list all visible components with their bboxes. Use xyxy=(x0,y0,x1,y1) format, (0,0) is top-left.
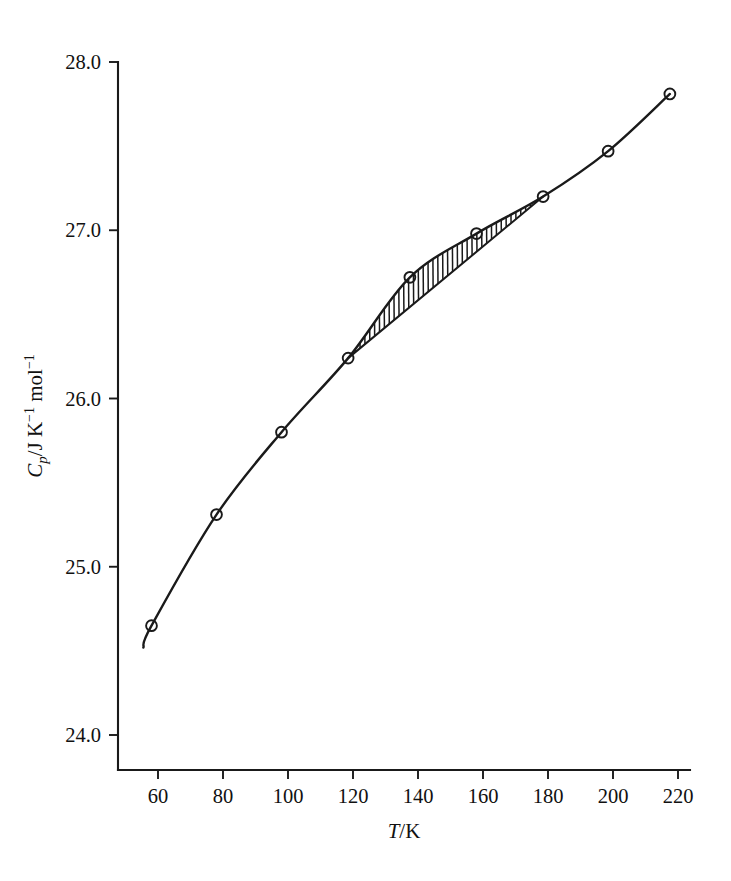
hatch-stroke xyxy=(505,54,508,466)
data-point-marker xyxy=(404,272,415,283)
data-point-marker xyxy=(471,228,482,239)
hatch-stroke xyxy=(358,54,361,466)
hatch-stroke xyxy=(363,54,366,466)
hatch-stroke xyxy=(461,54,464,466)
x-axis-tick-label: 100 xyxy=(273,785,304,807)
x-axis-tick-label: 140 xyxy=(403,785,434,807)
hatch-stroke xyxy=(451,54,454,466)
hatch-stroke xyxy=(495,54,498,466)
y-axis-tick-label: 28.0 xyxy=(65,51,101,73)
y-axis-tick-label: 24.0 xyxy=(65,724,101,746)
hatch-stroke xyxy=(373,54,376,466)
hatch-stroke xyxy=(441,54,444,466)
hatch-stroke xyxy=(407,54,410,466)
baseline-chord-line xyxy=(348,197,543,359)
hatch-stroke xyxy=(397,54,400,466)
hatch-stroke xyxy=(480,54,483,466)
x-axis-tick-label: 220 xyxy=(663,785,694,807)
hatch-stroke xyxy=(510,54,513,466)
hatch-stroke xyxy=(525,54,528,466)
data-point-marker xyxy=(146,620,157,631)
hatch-stroke xyxy=(471,54,474,466)
data-point-markers xyxy=(146,89,675,631)
hatch-stroke xyxy=(456,54,459,466)
hatch-stroke xyxy=(412,54,415,466)
hatch-stroke xyxy=(368,54,371,466)
data-point-marker xyxy=(276,427,287,438)
y-axis-title: Cp/J K−1 mol−1 xyxy=(22,354,50,478)
hatch-stroke xyxy=(378,54,381,466)
hatch-stroke xyxy=(446,54,449,466)
heat-capacity-chart: 24.025.026.027.028.0 6080100120140160180… xyxy=(0,0,731,881)
hatch-stroke xyxy=(387,54,390,466)
hatch-stroke xyxy=(490,54,493,466)
hatch-stroke xyxy=(500,54,503,466)
x-axis-tick-label: 60 xyxy=(148,785,169,807)
y-axis-tick-label: 26.0 xyxy=(65,388,101,410)
data-point-marker xyxy=(343,353,354,364)
x-axis-tick-label: 180 xyxy=(533,785,564,807)
hatch-stroke xyxy=(436,54,439,466)
x-axis-title: T/K xyxy=(388,819,421,843)
hatch-stroke xyxy=(382,54,385,466)
y-axis-tick-label: 25.0 xyxy=(65,556,101,578)
heat-capacity-curve xyxy=(143,94,670,648)
axis-lines xyxy=(118,62,690,770)
y-axis-ticks: 24.025.026.027.028.0 xyxy=(65,51,118,746)
hatch-stroke xyxy=(476,54,479,466)
data-point-marker xyxy=(664,89,675,100)
hatch-stroke xyxy=(534,54,537,466)
hatch-stroke xyxy=(392,54,395,466)
x-axis-tick-label: 160 xyxy=(468,785,499,807)
hatch-stroke xyxy=(515,54,518,466)
x-axis-tick-label: 80 xyxy=(213,785,234,807)
data-point-marker xyxy=(211,509,222,520)
hatch-stroke xyxy=(402,54,405,466)
figure-root: 24.025.026.027.028.0 6080100120140160180… xyxy=(0,0,731,881)
hatch-stroke xyxy=(539,54,542,466)
data-point-marker xyxy=(538,191,549,202)
x-axis-tick-label: 200 xyxy=(598,785,629,807)
hatch-stroke xyxy=(422,54,425,466)
hatch-stroke xyxy=(529,54,532,466)
hatch-stroke xyxy=(485,54,488,466)
y-axis-tick-label: 27.0 xyxy=(65,219,101,241)
hatched-excess-area xyxy=(348,54,542,466)
x-axis-ticks: 6080100120140160180200220 xyxy=(148,770,694,807)
data-point-marker xyxy=(603,146,614,157)
hatch-stroke xyxy=(353,54,356,466)
x-axis-tick-label: 120 xyxy=(338,785,369,807)
hatch-stroke xyxy=(520,54,523,466)
hatch-stroke xyxy=(417,54,420,466)
hatch-stroke xyxy=(427,54,430,466)
hatch-stroke xyxy=(348,54,351,466)
